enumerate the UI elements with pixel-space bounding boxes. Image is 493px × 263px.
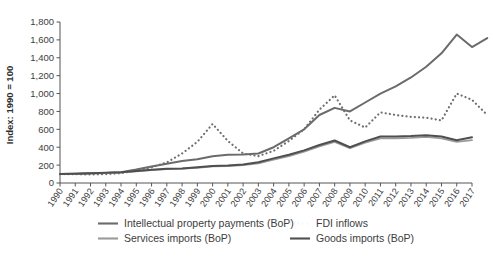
x-tick-label: 2001 (213, 186, 233, 208)
legend-item[interactable]: Goods imports (BoP) (290, 232, 414, 244)
x-tick-label: 2002 (229, 186, 249, 208)
x-tick-label: 1997 (152, 186, 172, 208)
legend-item[interactable]: Intellectual property payments (BoP) (98, 217, 294, 229)
y-axis-title-group: Index: 1990 = 100 (4, 66, 15, 144)
x-tick-label: 2004 (259, 186, 279, 208)
x-tick-label: 2000 (198, 186, 218, 208)
x-tick-label: 1995 (122, 186, 142, 208)
y-axis-title: Index: 1990 = 100 (4, 66, 15, 144)
x-tick-label: 2003 (244, 186, 264, 208)
x-tick-label: 1994 (106, 186, 126, 208)
chart-legend: Intellectual property payments (BoP)FDI … (98, 217, 414, 244)
legend-item[interactable]: FDI inflows (290, 217, 368, 229)
legend-label: Intellectual property payments (BoP) (124, 217, 294, 229)
x-tick-label: 1990 (45, 186, 65, 208)
x-tick-label: 1993 (91, 186, 111, 208)
x-tick-label: 2006 (290, 186, 310, 208)
series-line-3 (60, 135, 472, 174)
y-tick-label: 200 (38, 160, 54, 171)
x-tick-label: 1991 (61, 186, 81, 208)
x-tick-label: 2017 (457, 186, 477, 208)
chart-container: Index: 1990 = 100 02004006008001,0001,20… (0, 0, 493, 263)
x-tick-label: 1992 (76, 186, 96, 208)
y-tick-label: 1,000 (30, 88, 54, 99)
x-tick-label: 2005 (274, 186, 294, 208)
series-line-2 (60, 137, 472, 174)
series-line-1 (60, 94, 487, 175)
line-chart: Index: 1990 = 100 02004006008001,0001,20… (0, 0, 493, 263)
x-tick-label: 2014 (412, 186, 432, 208)
legend-label: FDI inflows (316, 217, 368, 229)
x-tick-label: 1999 (183, 186, 203, 208)
x-tick-label: 2013 (396, 186, 416, 208)
legend-label: Goods imports (BoP) (316, 232, 414, 244)
x-tick-label: 2009 (335, 186, 355, 208)
legend-item[interactable]: Services imports (BoP) (98, 232, 231, 244)
x-tick-label: 1998 (168, 186, 188, 208)
x-tick-label: 2012 (381, 186, 401, 208)
y-tick-label: 0 (49, 177, 54, 188)
y-tick-label: 1,600 (30, 34, 54, 45)
y-tick-label: 400 (38, 142, 54, 153)
y-axis-ticks: 02004006008001,0001,2001,4001,6001,800 (30, 16, 60, 188)
y-tick-label: 600 (38, 124, 54, 135)
y-tick-label: 1,800 (30, 16, 54, 27)
legend-label: Services imports (BoP) (124, 232, 231, 244)
x-tick-label: 2008 (320, 186, 340, 208)
series-lines (60, 35, 487, 175)
y-tick-label: 800 (38, 106, 54, 117)
series-line-0 (60, 35, 487, 175)
x-tick-label: 2007 (305, 186, 325, 208)
y-tick-label: 1,400 (30, 52, 54, 63)
x-tick-label: 2010 (351, 186, 371, 208)
x-tick-label: 1996 (137, 186, 157, 208)
x-tick-label: 2015 (427, 186, 447, 208)
y-tick-label: 1,200 (30, 70, 54, 81)
x-axis-ticks: 1990199119921993199419951996199719981999… (45, 183, 477, 209)
x-tick-label: 2016 (442, 186, 462, 208)
